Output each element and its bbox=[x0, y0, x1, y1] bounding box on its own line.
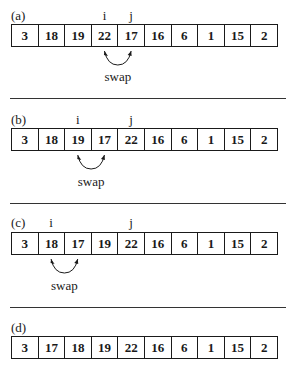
array-row: 3181719221661152 bbox=[11, 232, 278, 255]
array-cell: 19 bbox=[91, 337, 118, 358]
panel-label: (a) bbox=[11, 9, 25, 22]
arrowhead bbox=[51, 259, 55, 264]
arrowhead bbox=[77, 155, 81, 160]
array-cell: 6 bbox=[171, 129, 198, 150]
panel-divider bbox=[10, 203, 286, 204]
array-cell: 15 bbox=[224, 25, 251, 46]
swap-arrow-icon bbox=[0, 49, 300, 79]
pointer-j: j bbox=[118, 113, 145, 126]
swap-label: swap bbox=[44, 279, 84, 292]
array-cell: 3 bbox=[12, 25, 38, 46]
array-cell: 19 bbox=[64, 129, 91, 150]
panel-label: (c) bbox=[11, 216, 25, 229]
array-cell: 19 bbox=[64, 25, 91, 46]
panel-label: (d) bbox=[11, 321, 26, 334]
array-cell: 2 bbox=[250, 233, 277, 254]
array-cell: 1 bbox=[197, 233, 224, 254]
array-cell: 18 bbox=[64, 337, 91, 358]
array-cell: 15 bbox=[224, 129, 251, 150]
array-cell: 18 bbox=[38, 233, 65, 254]
panel-label: (b) bbox=[11, 113, 26, 126]
swap-label: swap bbox=[71, 175, 111, 188]
arrowhead bbox=[101, 155, 105, 160]
array-cell: 15 bbox=[224, 233, 251, 254]
array-row: 3181917221661152 bbox=[11, 128, 278, 151]
arrowhead bbox=[74, 259, 78, 264]
array-cell: 15 bbox=[224, 337, 251, 358]
arrowhead bbox=[104, 51, 108, 56]
array-cell: 16 bbox=[144, 129, 171, 150]
swap-curve bbox=[51, 259, 78, 273]
array-cell: 22 bbox=[117, 233, 144, 254]
array-cell: 6 bbox=[171, 337, 198, 358]
array-cell: 16 bbox=[144, 337, 171, 358]
array-cell: 16 bbox=[144, 25, 171, 46]
array-cell: 6 bbox=[171, 233, 198, 254]
array-cell: 19 bbox=[91, 233, 118, 254]
pointer-i: i bbox=[91, 9, 118, 22]
array-cell: 16 bbox=[144, 233, 171, 254]
array-cell: 17 bbox=[64, 233, 91, 254]
array-cell: 18 bbox=[38, 25, 65, 46]
array-cell: 3 bbox=[12, 337, 38, 358]
array-row: 3181922171661152 bbox=[11, 24, 278, 47]
panel-divider bbox=[10, 307, 286, 308]
pointer-j: j bbox=[118, 9, 145, 22]
swap-curve bbox=[78, 155, 105, 169]
array-cell: 3 bbox=[12, 129, 38, 150]
panel-divider bbox=[10, 98, 286, 99]
array-cell: 6 bbox=[171, 25, 198, 46]
array-cell: 18 bbox=[38, 129, 65, 150]
array-cell: 17 bbox=[38, 337, 65, 358]
pointer-j: j bbox=[118, 216, 145, 229]
array-cell: 22 bbox=[117, 129, 144, 150]
swap-curve bbox=[104, 51, 131, 65]
array-cell: 17 bbox=[117, 25, 144, 46]
swap-arrow-icon bbox=[0, 153, 300, 183]
pointer-i: i bbox=[64, 113, 91, 126]
array-cell: 1 bbox=[197, 129, 224, 150]
array-cell: 22 bbox=[117, 337, 144, 358]
array-cell: 2 bbox=[250, 25, 277, 46]
array-cell: 1 bbox=[197, 25, 224, 46]
array-cell: 22 bbox=[91, 25, 118, 46]
array-cell: 2 bbox=[250, 129, 277, 150]
pointer-i: i bbox=[38, 216, 65, 229]
array-cell: 3 bbox=[12, 233, 38, 254]
array-cell: 1 bbox=[197, 337, 224, 358]
swap-label: swap bbox=[98, 70, 138, 83]
array-cell: 2 bbox=[250, 337, 277, 358]
array-cell: 17 bbox=[91, 129, 118, 150]
array-row: 3171819221661152 bbox=[11, 336, 278, 359]
arrowhead bbox=[128, 51, 132, 56]
